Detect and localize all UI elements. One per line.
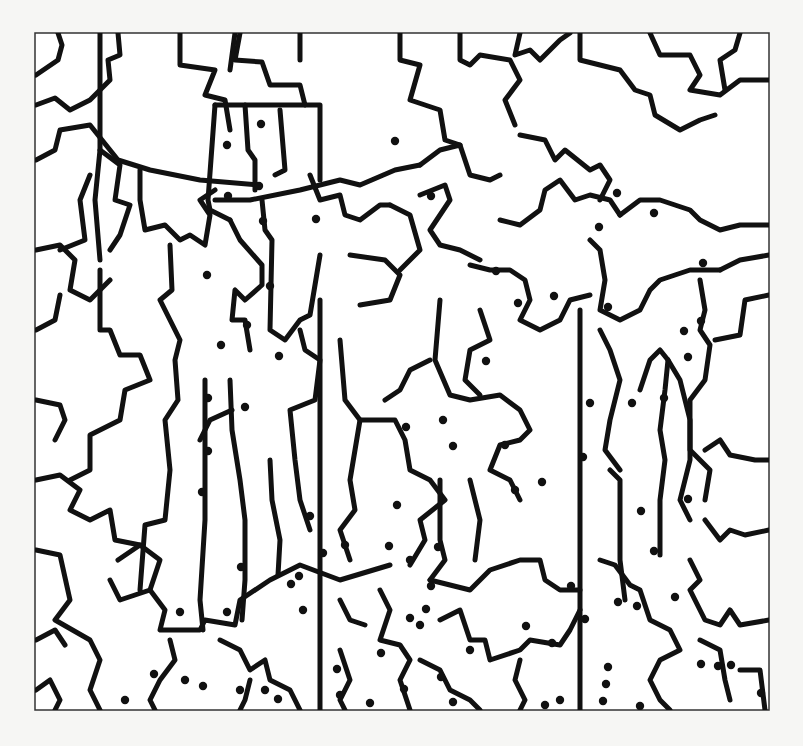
- shade-dot: [422, 605, 430, 613]
- shade-dot: [176, 608, 184, 616]
- shade-dot: [385, 542, 393, 550]
- shade-dot: [680, 327, 688, 335]
- shade-dot: [727, 661, 735, 669]
- shade-dot: [637, 507, 645, 515]
- shade-dot: [287, 580, 295, 588]
- shade-dot: [299, 606, 307, 614]
- shade-dot: [437, 673, 445, 681]
- shade-dot: [482, 357, 490, 365]
- shade-dot: [556, 696, 564, 704]
- shade-dot: [699, 259, 707, 267]
- shade-dot: [150, 670, 158, 678]
- shade-dot: [406, 556, 414, 564]
- shade-dot: [198, 488, 206, 496]
- shade-dot: [306, 512, 314, 520]
- shade-dot: [427, 582, 435, 590]
- shade-dot: [604, 303, 612, 311]
- shade-dot: [366, 699, 374, 707]
- shade-dot: [501, 441, 509, 449]
- shade-dot: [684, 495, 692, 503]
- shade-dot: [774, 619, 782, 627]
- shade-dot: [266, 282, 274, 290]
- shade-dot: [319, 549, 327, 557]
- shade-dot: [586, 399, 594, 407]
- shade-dot: [416, 621, 424, 629]
- shade-dot: [613, 189, 621, 197]
- shade-dot: [275, 352, 283, 360]
- shade-dot: [538, 478, 546, 486]
- shade-dot: [602, 680, 610, 688]
- shade-dot: [684, 353, 692, 361]
- shade-dot: [243, 321, 251, 329]
- shade-dot: [241, 403, 249, 411]
- shade-dot: [121, 696, 129, 704]
- shade-dot: [636, 702, 644, 710]
- shade-dot: [567, 582, 575, 590]
- shade-dot: [259, 217, 267, 225]
- shade-dot: [492, 267, 500, 275]
- shade-dot: [203, 271, 211, 279]
- shade-dot: [550, 292, 558, 300]
- shade-dot: [522, 622, 530, 630]
- shade-dot: [466, 646, 474, 654]
- shade-dot: [333, 665, 341, 673]
- shade-dot: [514, 299, 522, 307]
- shade-dot: [466, 716, 474, 724]
- shade-dot: [434, 543, 442, 551]
- shade-dot: [427, 192, 435, 200]
- shade-dot: [439, 416, 447, 424]
- shade-dot: [650, 209, 658, 217]
- shade-dot: [599, 697, 607, 705]
- shade-dot: [181, 676, 189, 684]
- shade-dot: [400, 685, 408, 693]
- shade-dot: [336, 691, 344, 699]
- shade-dot: [391, 137, 399, 145]
- shade-dot: [223, 608, 231, 616]
- shade-dot: [757, 689, 765, 697]
- shade-dot: [579, 453, 587, 461]
- shade-dot: [224, 192, 232, 200]
- shade-dot: [204, 447, 212, 455]
- shade-dot: [377, 649, 385, 657]
- shade-dot: [614, 598, 622, 606]
- shade-dot: [541, 701, 549, 709]
- shade-dot: [511, 486, 519, 494]
- shade-dot: [261, 686, 269, 694]
- shade-dot: [217, 341, 225, 349]
- shade-dot: [449, 442, 457, 450]
- shade-dot: [402, 423, 410, 431]
- hidden-picture-puzzle: [0, 0, 803, 746]
- shade-dot: [236, 686, 244, 694]
- shade-dot: [223, 141, 231, 149]
- shade-dot: [714, 662, 722, 670]
- shade-dot: [633, 602, 641, 610]
- shade-dot: [237, 563, 245, 571]
- shade-dot: [449, 698, 457, 706]
- shade-dot: [341, 541, 349, 549]
- shade-dot: [199, 682, 207, 690]
- shade-dot: [204, 394, 212, 402]
- shade-dot: [595, 223, 603, 231]
- shade-dot: [255, 182, 263, 190]
- shade-dot: [548, 639, 556, 647]
- shade-dot: [697, 317, 705, 325]
- shade-dot: [604, 663, 612, 671]
- shade-dot: [257, 120, 265, 128]
- shade-dot: [628, 399, 636, 407]
- shade-dot: [697, 660, 705, 668]
- shade-dot: [295, 572, 303, 580]
- shade-dot: [671, 593, 679, 601]
- shade-dot: [274, 695, 282, 703]
- shade-dot: [650, 547, 658, 555]
- shade-dot: [393, 501, 401, 509]
- shade-dot: [660, 394, 668, 402]
- shade-dot: [406, 614, 414, 622]
- shade-dot: [581, 615, 589, 623]
- shade-dot: [312, 215, 320, 223]
